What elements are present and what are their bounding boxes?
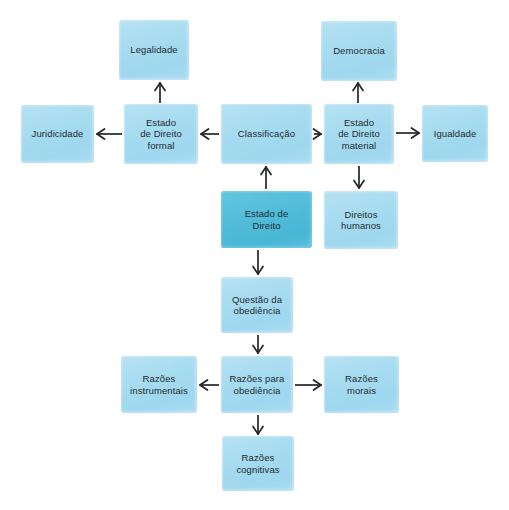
node-label-direitos-humanos: Direitos humanos: [341, 209, 381, 232]
diagram-edges-layer: [0, 0, 509, 510]
node-direitos-humanos[interactable]: Direitos humanos: [324, 191, 398, 249]
node-label-questao: Questão da obediência: [232, 294, 282, 317]
node-legalidade[interactable]: Legalidade: [119, 20, 189, 80]
arrow-edge-classificacao-to-ed-formal: [201, 129, 219, 139]
node-label-razoes-para: Razões para obediência: [230, 373, 285, 396]
node-label-juridicidade: Juridicidade: [32, 128, 84, 140]
node-label-legalidade: Legalidade: [130, 44, 178, 56]
arrow-edge-questao-to-razoes-para: [253, 335, 263, 353]
node-razoes-para[interactable]: Razões para obediência: [221, 356, 293, 413]
arrow-edge-ed-formal-to-juridicidade: [97, 129, 122, 139]
node-label-razoes-cogn: Razões cognitivas: [236, 452, 279, 475]
diagram-canvas: LegalidadeDemocraciaJuridicidadeEstado d…: [0, 0, 509, 510]
node-estado-direito[interactable]: Estado de Direito: [221, 191, 312, 248]
node-label-democracia: Democracia: [333, 45, 385, 57]
node-label-razoes-instr: Razões instrumentais: [130, 373, 188, 396]
node-juridicidade[interactable]: Juridicidade: [21, 105, 94, 163]
node-label-classificacao: Classificação: [238, 128, 295, 140]
arrow-edge-razoes-para-to-cogn: [253, 415, 263, 434]
node-label-ed-formal: Estado de Direito formal: [140, 117, 182, 152]
arrow-edge-ed-formal-to-legalidade: [155, 83, 165, 103]
arrow-edge-estado-to-classificacao: [261, 167, 271, 189]
node-democracia[interactable]: Democracia: [321, 21, 397, 81]
node-razoes-morais[interactable]: Razões morais: [324, 356, 399, 413]
arrow-edge-razoes-para-to-morais: [295, 380, 321, 390]
node-razoes-instr[interactable]: Razões instrumentais: [121, 356, 197, 413]
node-ed-formal[interactable]: Estado de Direito formal: [124, 104, 198, 164]
node-label-ed-material: Estado de Direito material: [338, 117, 380, 152]
arrow-edge-ed-material-to-igualdade: [396, 128, 419, 138]
arrow-edge-ed-material-to-democracia: [353, 83, 363, 103]
node-razoes-cogn[interactable]: Razões cognitivas: [222, 436, 294, 491]
node-label-estado-direito: Estado de Direito: [245, 208, 289, 231]
arrow-edge-razoes-para-to-instr: [200, 380, 219, 390]
arrow-edge-estado-to-questao: [253, 250, 263, 274]
node-label-igualdade: Igualdade: [434, 128, 477, 140]
node-questao[interactable]: Questão da obediência: [221, 277, 293, 333]
node-label-razoes-morais: Razões morais: [345, 373, 378, 396]
arrow-edge-ed-material-to-direitos: [354, 166, 364, 188]
arrow-edge-classificacao-to-ed-material: [314, 129, 322, 139]
node-classificacao[interactable]: Classificação: [221, 104, 312, 164]
node-igualdade[interactable]: Igualdade: [422, 105, 488, 162]
node-ed-material[interactable]: Estado de Direito material: [324, 104, 394, 164]
